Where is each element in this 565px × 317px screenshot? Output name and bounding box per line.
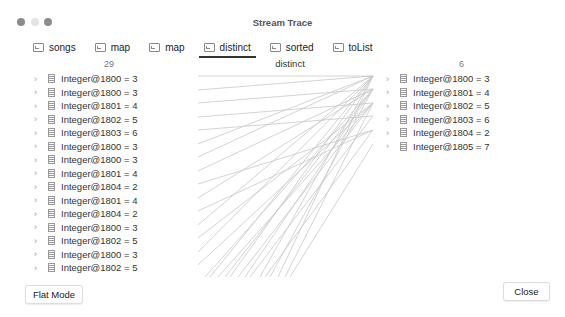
chevron-right-icon[interactable]: › — [34, 263, 42, 273]
list-item[interactable]: ›Integer@1802 = 5 — [34, 234, 137, 248]
item-value: Integer@1802 = 5 — [61, 235, 137, 246]
list-item[interactable]: ›Integer@1800 = 3 — [34, 140, 137, 154]
flat-mode-button[interactable]: Flat Mode — [25, 285, 83, 304]
item-value: Integer@1801 = 4 — [61, 168, 137, 179]
list-item[interactable]: ›Integer@1801 = 4 — [34, 167, 137, 181]
chevron-right-icon[interactable]: › — [34, 168, 42, 178]
item-value: Integer@1801 = 4 — [61, 195, 137, 206]
terminal-icon — [270, 43, 281, 52]
object-icon — [48, 74, 55, 83]
item-value: Integer@1802 = 5 — [413, 100, 489, 111]
chevron-right-icon[interactable]: › — [34, 209, 42, 219]
list-item[interactable]: ›Integer@1802 = 5 — [34, 113, 137, 127]
object-icon — [48, 196, 55, 205]
chevron-right-icon[interactable]: › — [34, 114, 42, 124]
tab-map-2[interactable]: map — [144, 39, 189, 56]
chevron-right-icon[interactable]: › — [34, 195, 42, 205]
chevron-right-icon[interactable]: › — [34, 74, 42, 84]
object-icon — [400, 74, 407, 83]
object-icon — [48, 223, 55, 232]
chevron-right-icon[interactable]: › — [386, 87, 394, 97]
list-item[interactable]: ›Integer@1802 = 5 — [386, 99, 489, 113]
list-item[interactable]: ›Integer@1801 = 4 — [386, 86, 489, 100]
item-value: Integer@1800 = 3 — [61, 141, 137, 152]
close-button[interactable]: Close — [503, 282, 550, 301]
tab-map[interactable]: map — [90, 39, 135, 56]
terminal-icon — [33, 43, 44, 52]
title-bar: Stream Trace — [0, 0, 565, 28]
window-title: Stream Trace — [0, 17, 565, 28]
chevron-right-icon[interactable]: › — [34, 155, 42, 165]
left-count: 29 — [104, 59, 114, 69]
object-icon — [48, 101, 55, 110]
chevron-right-icon[interactable]: › — [386, 101, 394, 111]
tab-sorted[interactable]: sorted — [265, 39, 319, 56]
tab-tolist[interactable]: toList — [328, 39, 378, 56]
list-item[interactable]: ›Integer@1800 = 3 — [34, 86, 137, 100]
item-value: Integer@1804 = 2 — [61, 208, 137, 219]
item-value: Integer@1802 = 5 — [61, 262, 137, 273]
object-icon — [48, 142, 55, 151]
object-icon — [400, 128, 407, 137]
operation-label: distinct — [190, 58, 390, 69]
list-item[interactable]: ›Integer@1805 = 7 — [386, 140, 489, 154]
tab-distinct[interactable]: distinct — [199, 39, 256, 56]
item-value: Integer@1801 = 4 — [61, 100, 137, 111]
item-value: Integer@1801 = 4 — [413, 87, 489, 98]
tab-songs[interactable]: songs — [28, 39, 81, 56]
chevron-right-icon[interactable]: › — [34, 87, 42, 97]
list-item[interactable]: ›Integer@1802 = 5 — [34, 261, 137, 275]
item-value: Integer@1803 = 6 — [61, 127, 137, 138]
chevron-right-icon[interactable]: › — [34, 222, 42, 232]
object-icon — [400, 88, 407, 97]
list-item[interactable]: ›Integer@1800 = 3 — [34, 153, 137, 167]
chevron-right-icon[interactable]: › — [386, 114, 394, 124]
item-value: Integer@1803 = 6 — [413, 114, 489, 125]
item-value: Integer@1805 = 7 — [413, 141, 489, 152]
item-value: Integer@1800 = 3 — [61, 73, 137, 84]
object-icon — [48, 169, 55, 178]
chevron-right-icon[interactable]: › — [34, 141, 42, 151]
object-icon — [400, 101, 407, 110]
item-value: Integer@1800 = 3 — [61, 222, 137, 233]
tab-label: map — [165, 42, 184, 53]
list-item[interactable]: ›Integer@1801 = 4 — [34, 99, 137, 113]
terminal-icon — [149, 43, 160, 52]
object-icon — [48, 115, 55, 124]
chevron-right-icon[interactable]: › — [34, 128, 42, 138]
object-icon — [48, 182, 55, 191]
list-item[interactable]: ›Integer@1804 = 2 — [386, 126, 489, 140]
terminal-icon — [95, 43, 106, 52]
tab-label: map — [111, 42, 130, 53]
chevron-right-icon[interactable]: › — [34, 249, 42, 259]
list-item[interactable]: ›Integer@1804 = 2 — [34, 180, 137, 194]
object-icon — [400, 142, 407, 151]
list-item[interactable]: ›Integer@1800 = 3 — [386, 72, 489, 86]
output-values-list: ›Integer@1800 = 3 ›Integer@1801 = 4 ›Int… — [386, 72, 489, 153]
chevron-right-icon[interactable]: › — [386, 141, 394, 151]
input-values-list: ›Integer@1800 = 3 ›Integer@1800 = 3 ›Int… — [34, 72, 137, 275]
list-item[interactable]: ›Integer@1803 = 6 — [386, 113, 489, 127]
terminal-icon — [333, 43, 344, 52]
list-item[interactable]: ›Integer@1804 = 2 — [34, 207, 137, 221]
chevron-right-icon[interactable]: › — [34, 236, 42, 246]
object-icon — [48, 209, 55, 218]
tab-label: toList — [349, 42, 373, 53]
object-icon — [400, 115, 407, 124]
tab-label: songs — [49, 42, 76, 53]
chevron-right-icon[interactable]: › — [386, 74, 394, 84]
list-item[interactable]: ›Integer@1800 = 3 — [34, 72, 137, 86]
mapping-lines — [190, 70, 375, 277]
object-icon — [48, 263, 55, 272]
item-value: Integer@1804 = 2 — [61, 181, 137, 192]
list-item[interactable]: ›Integer@1801 = 4 — [34, 194, 137, 208]
list-item[interactable]: ›Integer@1800 = 3 — [34, 221, 137, 235]
chevron-right-icon[interactable]: › — [34, 101, 42, 111]
item-value: Integer@1802 = 5 — [61, 114, 137, 125]
chevron-right-icon[interactable]: › — [386, 128, 394, 138]
object-icon — [48, 155, 55, 164]
right-count: 6 — [459, 59, 464, 69]
list-item[interactable]: ›Integer@1803 = 6 — [34, 126, 137, 140]
list-item[interactable]: ›Integer@1800 = 3 — [34, 248, 137, 262]
chevron-right-icon[interactable]: › — [34, 182, 42, 192]
